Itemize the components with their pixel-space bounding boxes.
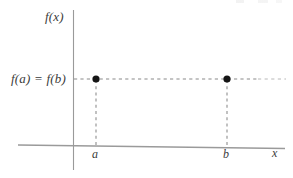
tick-label-b: b xyxy=(223,148,229,160)
tick-label-a: a xyxy=(92,148,98,160)
y-axis-label: f(x) xyxy=(45,10,64,23)
value-level-label: f(a) = f(b) xyxy=(11,72,66,85)
x-axis-label: x xyxy=(272,147,278,159)
data-point-b xyxy=(223,75,230,82)
rolles-theorem-figure: f(x) f(a) = f(b) a b x xyxy=(0,0,293,178)
scan-artifact xyxy=(232,0,290,3)
x-axis-line xyxy=(18,145,285,149)
data-point-a xyxy=(92,75,99,82)
coordinate-diagram-canvas xyxy=(0,0,293,178)
